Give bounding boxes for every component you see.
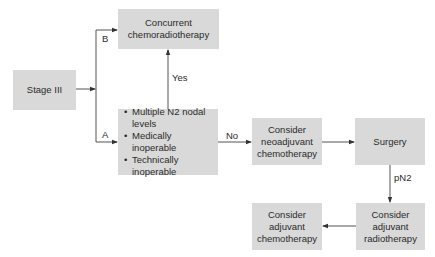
adjuvant-radiotherapy-node: Consider adjuvant radiotherapy <box>356 203 425 250</box>
edge-label-a: A <box>102 129 108 140</box>
adj-chemo-line1: Consider <box>257 209 317 221</box>
adj-radio-line2: adjuvant <box>364 221 417 233</box>
edge-label-pn2: pN2 <box>394 172 411 183</box>
neoadjuvant-line1: Consider <box>257 124 317 136</box>
neoadjuvant-chemotherapy-node: Consider neoadjuvant chemotherapy <box>252 118 322 165</box>
stage-iii-label: Stage III <box>27 84 62 96</box>
edge-label-yes: Yes <box>172 72 188 83</box>
concurrent-line2: chemoradiotherapy <box>128 29 209 41</box>
criteria-item: Medically inoperable <box>124 130 218 154</box>
adj-chemo-line3: chemotherapy <box>257 233 317 245</box>
concurrent-chemoradiotherapy-node: Concurrent chemoradiotherapy <box>118 9 219 49</box>
surgery-node: Surgery <box>355 118 425 165</box>
adjuvant-chemotherapy-node: Consider adjuvant chemotherapy <box>252 203 322 250</box>
criteria-node: Multiple N2 nodal levels Medically inope… <box>118 109 218 175</box>
edge-label-no: No <box>226 130 238 141</box>
criteria-item: Technically inoperable <box>124 154 218 178</box>
concurrent-line1: Concurrent <box>128 17 209 29</box>
neoadjuvant-line3: chemotherapy <box>257 148 317 160</box>
criteria-item: Multiple N2 nodal levels <box>124 106 218 130</box>
adj-radio-line1: Consider <box>364 209 417 221</box>
neoadjuvant-line2: neoadjuvant <box>257 136 317 148</box>
edge-label-b: B <box>102 33 108 44</box>
stage-iii-node: Stage III <box>13 70 76 110</box>
adj-radio-line3: radiotherapy <box>364 233 417 245</box>
adj-chemo-line2: adjuvant <box>257 221 317 233</box>
surgery-label: Surgery <box>373 136 406 148</box>
criteria-list: Multiple N2 nodal levels Medically inope… <box>124 106 218 178</box>
